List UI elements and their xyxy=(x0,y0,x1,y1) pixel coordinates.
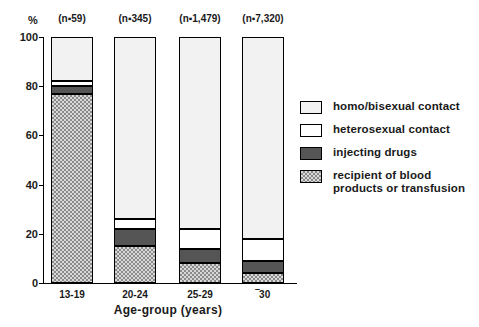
dark-gray-swatch-icon xyxy=(300,147,322,160)
light-gray-swatch-icon xyxy=(300,101,322,114)
y-tick-mark-60 xyxy=(39,135,44,136)
bar-n-label-13-19: (n▪59) xyxy=(58,13,85,24)
segment-inject-13-19 xyxy=(51,86,93,93)
segment-hetero-13-19 xyxy=(51,81,93,86)
segment-hetero-20-24 xyxy=(114,219,156,229)
bar-n-label-30-plus: (n▪7,320) xyxy=(242,13,283,24)
legend-item-injecting-drugs: injecting drugs xyxy=(300,146,476,160)
legend-item-heterosexual-contact: heterosexual contact xyxy=(300,123,476,137)
plot-area: (n▪59) 13-19 (n▪345) 20-24 (n▪1,479) 25-… xyxy=(44,37,292,283)
y-axis-line xyxy=(43,37,44,283)
y-tick-label-0: 0 xyxy=(8,277,38,289)
stacked-bar-chart: % 100 80 60 40 20 0 (n▪59) 13-19 (n▪345) xyxy=(0,0,479,327)
legend-label-blood-products: recipient of blood products or transfusi… xyxy=(333,169,465,195)
segment-blood-30-plus xyxy=(242,273,284,283)
segment-inject-25-29 xyxy=(179,249,221,264)
bar-25-29: (n▪1,479) 25-29 xyxy=(179,37,221,283)
bar-n-label-25-29: (n▪1,479) xyxy=(179,13,220,24)
legend-label-injecting-drugs: injecting drugs xyxy=(333,146,417,159)
y-tick-label-100: 100 xyxy=(8,31,38,43)
bar-20-24: (n▪345) 20-24 xyxy=(114,37,156,283)
segment-homo-25-29 xyxy=(179,37,221,229)
segment-inject-30-plus xyxy=(242,261,284,273)
segment-inject-20-24 xyxy=(114,229,156,246)
x-tick-label-25-29: 25-29 xyxy=(187,289,213,300)
segment-homo-20-24 xyxy=(114,37,156,219)
bar-13-19: (n▪59) 13-19 xyxy=(51,37,93,283)
segment-homo-30-plus xyxy=(242,37,284,239)
segment-hetero-30-plus xyxy=(242,239,284,261)
y-tick-mark-40 xyxy=(39,185,44,186)
segment-blood-25-29 xyxy=(179,263,221,283)
y-tick-label-80: 80 xyxy=(8,80,38,92)
y-tick-label-60: 60 xyxy=(8,129,38,141)
legend-item-blood-products: recipient of blood products or transfusi… xyxy=(300,169,476,195)
segment-hetero-25-29 xyxy=(179,229,221,249)
x-axis-line xyxy=(43,283,297,284)
legend-item-homo-bisexual-contact: homo/bisexual contact xyxy=(300,100,476,114)
segment-blood-20-24 xyxy=(114,246,156,283)
white-swatch-icon xyxy=(300,124,322,137)
hatched-swatch-icon xyxy=(300,170,322,183)
y-tick-mark-0 xyxy=(39,283,44,284)
y-tick-mark-80 xyxy=(39,86,44,87)
bar-30-plus: (n▪7,320) ‾30 xyxy=(242,37,284,283)
x-axis-title: Age-group (years) xyxy=(44,303,292,317)
segment-homo-13-19 xyxy=(51,37,93,81)
y-tick-label-40: 40 xyxy=(8,179,38,191)
legend-label-heterosexual-contact: heterosexual contact xyxy=(333,123,450,136)
legend: homo/bisexual contact heterosexual conta… xyxy=(300,100,476,204)
y-tick-label-20: 20 xyxy=(8,228,38,240)
y-tick-mark-20 xyxy=(39,234,44,235)
segment-blood-13-19 xyxy=(51,94,93,283)
y-axis-tick-labels: 100 80 60 40 20 0 xyxy=(8,0,38,327)
x-tick-label-13-19: 13-19 xyxy=(59,289,85,300)
x-tick-label-30-plus: ‾30 xyxy=(256,289,270,300)
x-tick-label-20-24: 20-24 xyxy=(122,289,148,300)
bar-n-label-20-24: (n▪345) xyxy=(119,13,152,24)
y-tick-mark-100 xyxy=(39,37,44,38)
legend-label-homo-bisexual-contact: homo/bisexual contact xyxy=(333,100,460,113)
